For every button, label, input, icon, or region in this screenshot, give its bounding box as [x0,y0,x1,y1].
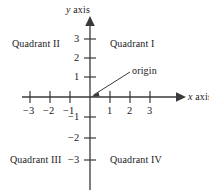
x-axis-label: x axis [188,92,209,102]
x-axis-arrowhead [176,92,186,102]
quadrant-label-three: Quadrant III [10,155,62,165]
y-tick-label-2: 2 [74,53,79,64]
x-tick-label-1: 1 [107,106,112,117]
y-axis-arrowhead [85,16,95,26]
quadrant-label-two: Quadrant II [12,39,60,49]
y-axis-label-variable: y [66,4,71,15]
y-tick-label-minus-2: −2 [68,133,79,144]
y-tick-label-minus-1: −1 [68,112,79,123]
y-axis-label-word: axis [73,4,90,15]
axes-drawing [0,0,209,195]
x-axis-label-word: axis [195,91,209,102]
quadrant-label-four: Quadrant IV [110,155,162,165]
x-tick-label-3: 3 [147,106,152,117]
x-tick-label-minus-2: −2 [43,106,54,117]
x-tick-label-minus-3: −3 [23,106,34,117]
origin-leader-arrowhead [91,92,100,97]
origin-leader-line [94,72,131,95]
y-tick-label-1: 1 [74,72,79,83]
x-tick-label-2: 2 [127,106,132,117]
origin-label: origin [132,66,157,76]
y-axis-label: y axis [66,5,90,15]
y-tick-label-3: 3 [74,34,79,45]
quadrant-label-one: Quadrant I [110,39,155,49]
y-tick-label-minus-3: −3 [68,155,79,166]
x-axis-label-variable: x [188,91,193,102]
coordinate-plane-figure: y axis x axis −3 −2 −1 1 2 3 3 2 1 −1 −2… [0,0,209,195]
